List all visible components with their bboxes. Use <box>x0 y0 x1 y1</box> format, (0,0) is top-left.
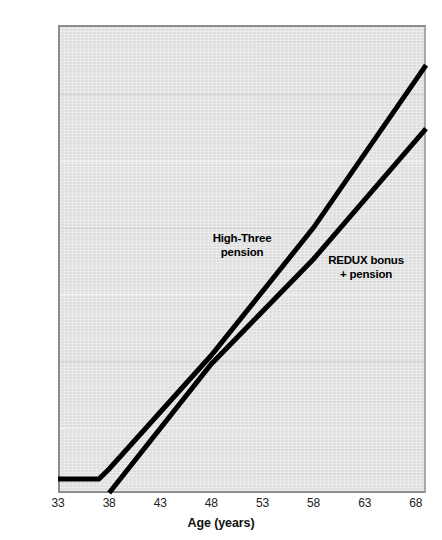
x-axis-tick-label: 58 <box>294 496 334 510</box>
series-label-high-three-pension: High-Three pension <box>196 231 288 259</box>
line-redux-bonus-pension <box>109 129 426 493</box>
x-axis-tick-label: 63 <box>345 496 385 510</box>
x-axis-tick-label: 53 <box>242 496 282 510</box>
x-axis-tick-label: 68 <box>396 496 436 510</box>
pension-comparison-chart: $0$100,000$200,000$300,000$400,000$500,0… <box>0 0 442 540</box>
x-axis-title: Age (years) <box>0 516 442 530</box>
x-axis-tick-label: 33 <box>38 496 78 510</box>
x-axis-tick-label: 48 <box>191 496 231 510</box>
x-axis-tick-label: 43 <box>140 496 180 510</box>
series-label-redux-bonus-pension: REDUX bonus + pension <box>314 253 418 281</box>
x-axis-tick-label: 38 <box>89 496 129 510</box>
